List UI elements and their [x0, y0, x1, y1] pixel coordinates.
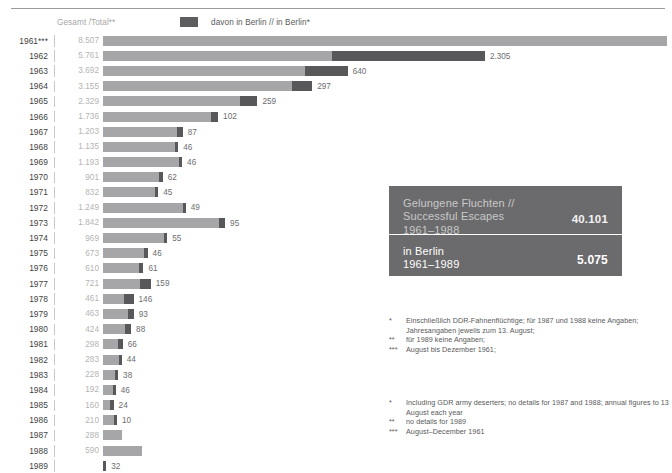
- bar-segment-berlin: [177, 127, 183, 137]
- bar-berlin-value-label: 10: [122, 416, 131, 425]
- footnote-marker: *: [389, 316, 406, 335]
- bar-segment-total: [103, 157, 182, 167]
- row-divider: [54, 111, 55, 123]
- bar-segment-berlin: [305, 66, 347, 76]
- row-year-label: 1975: [0, 248, 54, 258]
- row-bars: 102: [103, 109, 672, 124]
- chart-row: 1977721159: [0, 276, 672, 291]
- row-bars: 259: [103, 94, 672, 109]
- bar-berlin-value-label: 45: [163, 188, 172, 197]
- row-year-label: 1985: [0, 400, 54, 410]
- row-year-label: 1962: [0, 51, 54, 61]
- row-bars: 62: [103, 170, 672, 185]
- bar-berlin-value-label: 61: [148, 264, 157, 273]
- row-total-value: 8.507: [54, 36, 103, 45]
- bar-segment-total: [103, 81, 312, 91]
- bar-segment-total: [103, 96, 257, 106]
- bar-berlin-value-label: 44: [127, 355, 136, 364]
- summary-berlin-panel: in Berlin 1961–1989 5.075: [389, 234, 622, 276]
- bar-segment-total: [103, 36, 667, 46]
- berlin-swatch-icon: [180, 17, 198, 27]
- row-divider: [54, 50, 55, 62]
- row-divider: [54, 65, 55, 77]
- bar-berlin-value-label: 38: [123, 371, 132, 380]
- footnotes-german: *Einschließlich DDR-Fahnenflüchtige; für…: [389, 316, 669, 354]
- chart-row: 19643.155297: [0, 79, 672, 94]
- chart-row: 1961***8.507: [0, 33, 672, 48]
- chart-row: 197090162: [0, 170, 672, 185]
- row-year-label: 1967: [0, 127, 54, 137]
- summary-total-panel: Gelungene Fluchten // Successful Escapes…: [389, 186, 622, 234]
- row-divider: [54, 232, 55, 244]
- bar-segment-total: [103, 248, 148, 258]
- chart-row: 19681.13546: [0, 139, 672, 154]
- bar-segment-berlin: [103, 461, 106, 471]
- chart-row: 19625.7612.305: [0, 48, 672, 63]
- row-divider: [54, 202, 55, 214]
- row-total-value: 298: [54, 340, 103, 349]
- bar-segment-berlin: [139, 263, 143, 273]
- row-total-value: 610: [54, 264, 103, 273]
- row-total-value: 1.203: [54, 127, 103, 136]
- row-total-value: 3.155: [54, 82, 103, 91]
- row-year-label: 1984: [0, 385, 54, 395]
- bar-segment-berlin: [113, 385, 116, 395]
- row-total-value: 1.736: [54, 112, 103, 121]
- row-total-value: 5.761: [54, 51, 103, 60]
- row-year-label: 1965: [0, 96, 54, 106]
- bar-berlin-value-label: 102: [223, 112, 237, 121]
- chart-row: 198419246: [0, 382, 672, 397]
- row-divider: [54, 400, 55, 412]
- chart-row: 1978461146: [0, 291, 672, 306]
- bar-segment-total: [103, 187, 158, 197]
- row-divider: [54, 187, 55, 199]
- row-divider: [54, 384, 55, 396]
- row-divider: [54, 430, 55, 442]
- row-total-value: 228: [54, 370, 103, 379]
- row-divider: [54, 172, 55, 184]
- bar-segment-berlin: [164, 233, 168, 243]
- bar-berlin-value-label: 87: [188, 128, 197, 137]
- legend-berlin-label: davon in Berlin // in Berlin*: [211, 18, 310, 27]
- row-divider: [54, 354, 55, 366]
- row-total-value: 1.249: [54, 203, 103, 212]
- footnote-en-item: ***August–December 1961: [389, 427, 669, 437]
- row-year-label: 1966: [0, 112, 54, 122]
- footnote-text: Einschließlich DDR-Fahnenflüchtige; für …: [406, 316, 669, 335]
- row-total-value: 901: [54, 173, 103, 182]
- legend-total-label: Gesamt /Total**: [57, 18, 180, 27]
- bar-segment-total: [103, 446, 142, 456]
- footnote-text: Including GDR army deserters; no details…: [406, 398, 669, 417]
- row-year-label: 1970: [0, 172, 54, 182]
- row-divider: [54, 324, 55, 336]
- chart-row: 19652.329259: [0, 94, 672, 109]
- row-total-value: 160: [54, 401, 103, 410]
- bar-berlin-value-label: 66: [128, 340, 137, 349]
- row-divider: [54, 415, 55, 427]
- bar-segment-berlin: [240, 96, 257, 106]
- row-divider: [54, 96, 55, 108]
- footnote-marker: ***: [389, 427, 406, 437]
- summary-info-box: Gelungene Fluchten // Successful Escapes…: [389, 186, 622, 276]
- bar-berlin-value-label: 88: [136, 325, 145, 334]
- row-year-label: 1978: [0, 294, 54, 304]
- bar-berlin-value-label: 259: [262, 97, 276, 106]
- bar-segment-total: [103, 112, 218, 122]
- bar-berlin-value-label: 146: [139, 295, 153, 304]
- row-year-label: 1989: [0, 461, 54, 471]
- row-divider: [54, 369, 55, 381]
- footnote-marker: **: [389, 417, 406, 427]
- row-bars: 38: [103, 367, 672, 382]
- bar-berlin-value-label: 49: [191, 203, 200, 212]
- row-divider: [54, 339, 55, 351]
- row-divider: [54, 217, 55, 229]
- row-divider: [54, 126, 55, 138]
- row-divider: [54, 293, 55, 305]
- footnote-marker: *: [389, 398, 406, 417]
- bar-berlin-value-label: 24: [119, 401, 128, 410]
- row-bars: 87: [103, 124, 672, 139]
- footnote-text: August bis Dezember 1961;: [406, 345, 669, 355]
- row-total-value: 832: [54, 188, 103, 197]
- bar-berlin-value-label: 46: [187, 158, 196, 167]
- chart-row: 19633.692640: [0, 63, 672, 78]
